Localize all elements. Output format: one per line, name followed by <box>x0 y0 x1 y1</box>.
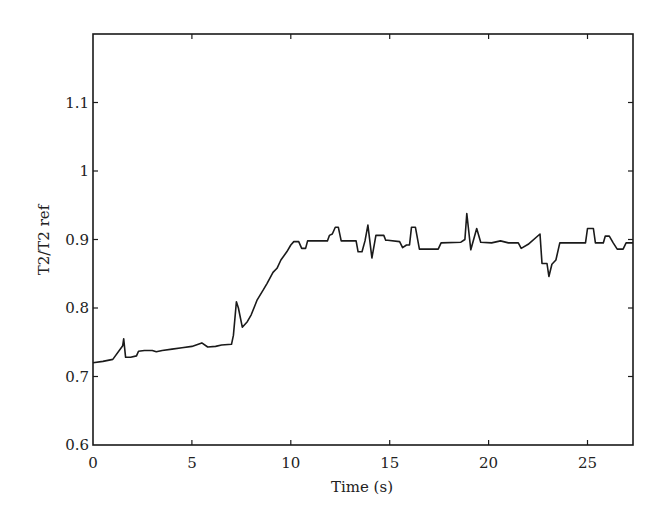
y-tick-label: 1 <box>79 162 89 180</box>
plot-area <box>93 34 633 445</box>
x-tick-label: 5 <box>187 454 197 472</box>
x-tick-label: 20 <box>479 454 498 472</box>
y-tick-label: 0.9 <box>65 231 89 249</box>
y-axis-label: T2/T2 ref <box>35 203 53 275</box>
chart: 05101520250.60.70.80.911.1 Time (s) T2/T… <box>0 0 666 524</box>
x-tick-label: 25 <box>578 454 597 472</box>
x-axis-label: Time (s) <box>331 478 393 496</box>
y-tick-label: 1.1 <box>65 94 89 112</box>
y-tick-label: 0.7 <box>65 368 89 386</box>
y-tick-label: 0.8 <box>65 299 89 317</box>
x-tick-label: 0 <box>88 454 98 472</box>
x-tick-label: 15 <box>380 454 399 472</box>
y-tick-label: 0.6 <box>65 436 89 454</box>
x-tick-label: 10 <box>281 454 300 472</box>
